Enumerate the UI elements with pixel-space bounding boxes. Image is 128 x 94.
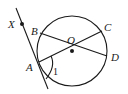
label-angle-1: 1	[53, 66, 58, 77]
tangent-line-XA	[16, 8, 48, 89]
label-O: O	[67, 34, 75, 46]
geometry-diagram: X B O C D A 1	[0, 0, 128, 94]
label-B: B	[31, 25, 38, 37]
label-C: C	[104, 21, 112, 33]
label-X: X	[7, 18, 16, 30]
label-D: D	[110, 51, 119, 63]
point-O-dot	[70, 49, 74, 53]
label-A: A	[25, 61, 33, 73]
point-X-dot	[20, 22, 24, 26]
